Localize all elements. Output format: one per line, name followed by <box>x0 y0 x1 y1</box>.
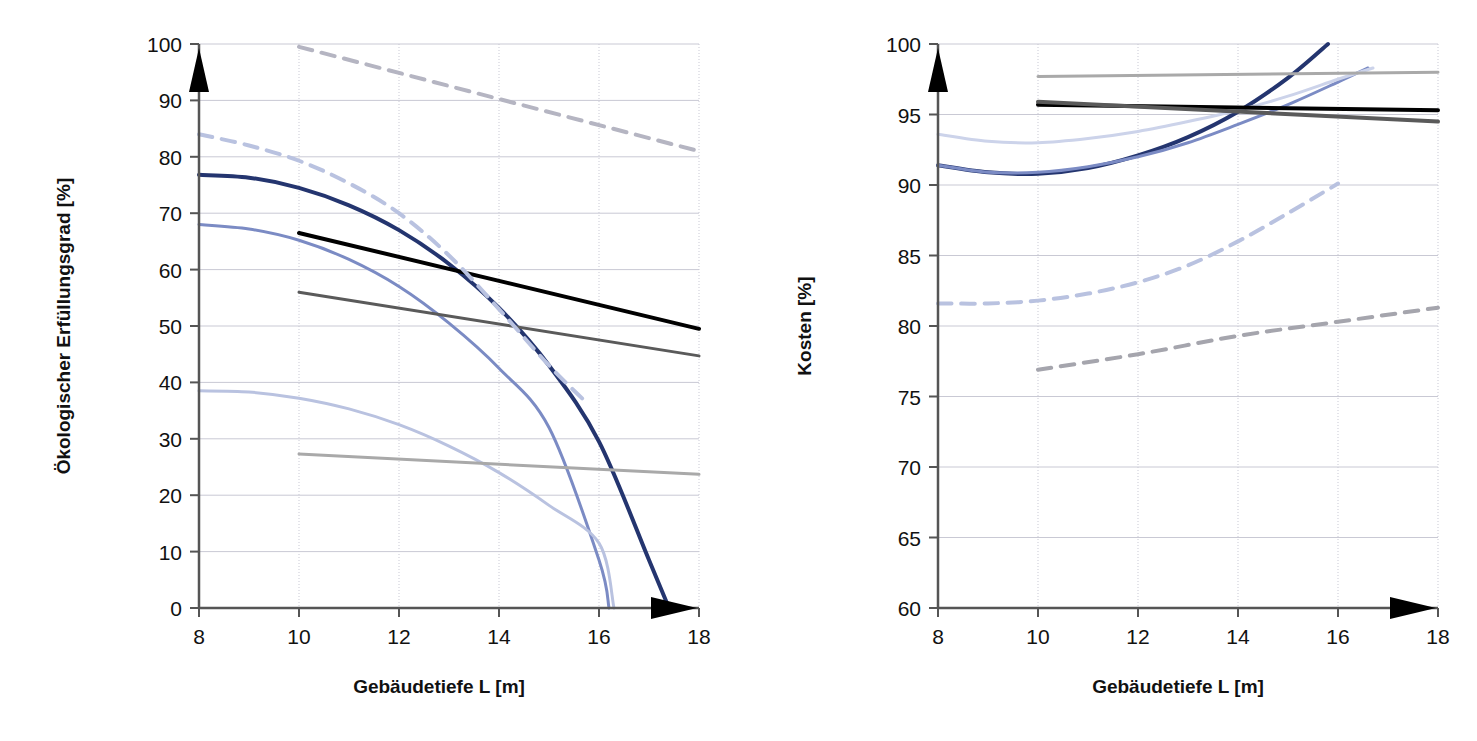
y-axis-tick-label: 75 <box>898 386 921 409</box>
y-axis-tick-label: 0 <box>170 597 182 620</box>
y-axis-tick-label: 95 <box>898 104 921 127</box>
series-line-gray-dark-straight-line <box>299 292 699 356</box>
x-axis-tick-label: 8 <box>193 625 205 648</box>
series-line-blue-mid-solid-u-curve <box>938 68 1368 173</box>
series-left <box>199 47 699 608</box>
x-axis-tick-label: 16 <box>587 625 610 648</box>
y-axis-tick-label: 100 <box>147 33 182 56</box>
x-axis-tick-label: 12 <box>387 625 410 648</box>
y-axis-tick-label: 85 <box>898 245 921 268</box>
y-axis-tick-label: 10 <box>159 541 182 564</box>
y-axis-tick-label: 70 <box>898 456 921 479</box>
x-axis-tick-label: 18 <box>687 625 710 648</box>
y-axis-arrow-icon <box>189 48 209 92</box>
x-axis-tick-label: 10 <box>287 625 310 648</box>
chart-right-svg: 606570758085909510081012141618Gebäudetie… <box>739 0 1477 741</box>
y-axis-tick-label: 20 <box>159 484 182 507</box>
chart-panel-left: 010203040506070809010081012141618Gebäude… <box>0 0 738 741</box>
y-axis-tick-label: 50 <box>159 315 182 338</box>
figure-root: 010203040506070809010081012141618Gebäude… <box>0 0 1477 741</box>
x-axis-tick-label: 16 <box>1326 625 1349 648</box>
x-axis-arrow-icon <box>651 597 697 619</box>
y-axis-title: Kosten [%] <box>794 276 815 375</box>
y-axis-tick-label: 30 <box>159 428 182 451</box>
y-axis-tick-label: 100 <box>886 33 921 56</box>
y-axis-tick-label: 40 <box>159 371 182 394</box>
x-axis-title: Gebäudetiefe L [m] <box>353 676 525 697</box>
series-line-blue-dashed-curve <box>938 184 1338 304</box>
y-axis-tick-label: 80 <box>159 146 182 169</box>
y-axis-tick-label: 90 <box>898 174 921 197</box>
x-axis-tick-label: 12 <box>1126 625 1149 648</box>
series-line-gray-light-straight-line <box>1038 72 1438 76</box>
y-axis-tick-label: 65 <box>898 527 921 550</box>
y-axis-title: Ökologischer Erfüllungsgrad [%] <box>53 178 74 475</box>
series-line-blue-mid-solid-curve <box>199 224 609 608</box>
y-axis-tick-label: 60 <box>159 259 182 282</box>
grid-right <box>938 44 1438 608</box>
y-axis-tick-label: 80 <box>898 315 921 338</box>
x-axis-arrow-icon <box>1390 597 1436 619</box>
y-axis-tick-label: 60 <box>898 597 921 620</box>
chart-panel-right: 606570758085909510081012141618Gebäudetie… <box>739 0 1477 741</box>
y-axis-tick-label: 90 <box>159 89 182 112</box>
chart-left-svg: 010203040506070809010081012141618Gebäude… <box>0 0 738 741</box>
y-axis-tick-label: 70 <box>159 202 182 225</box>
series-right <box>938 44 1438 370</box>
y-axis-arrow-icon <box>928 48 948 92</box>
x-axis-tick-label: 18 <box>1426 625 1449 648</box>
grid-left <box>199 44 699 608</box>
x-axis-tick-label: 14 <box>487 625 511 648</box>
x-axis-title: Gebäudetiefe L [m] <box>1092 676 1264 697</box>
series-line-blue-pale-solid-curve <box>199 391 614 608</box>
axes-right <box>928 44 1438 619</box>
x-axis-tick-label: 8 <box>932 625 944 648</box>
x-axis-tick-label: 10 <box>1026 625 1049 648</box>
x-axis-tick-label: 14 <box>1226 625 1250 648</box>
